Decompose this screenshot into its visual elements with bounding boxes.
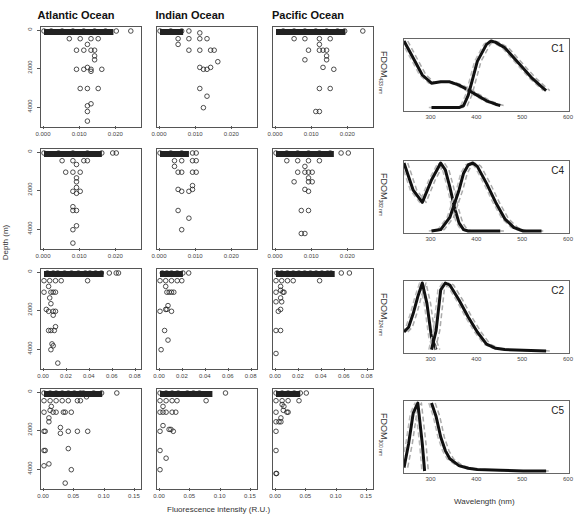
row-label-433-nm: FDOM433 nm — [378, 51, 389, 94]
x-tick-label: 0.020 — [224, 253, 239, 259]
wavelength-tick-label: 300 — [425, 476, 435, 482]
x-tick-mark — [347, 126, 348, 129]
column-title-pacific: Pacific Ocean — [258, 9, 358, 21]
scatter-points — [41, 389, 141, 489]
x-tick-label: 0.15 — [128, 493, 140, 499]
x-tick-mark — [115, 126, 116, 129]
spectra-inset-C5: C5 — [403, 400, 570, 474]
x-tick-label: 0.04 — [315, 373, 327, 379]
y-tick-label: 2000 — [27, 299, 33, 319]
x-tick-mark — [66, 368, 67, 371]
x-tick-label: 0.020 — [340, 131, 355, 137]
y-tick-mark — [37, 229, 40, 230]
x-tick-label: 0.010 — [188, 131, 203, 137]
row-label-main: FDOM — [379, 293, 389, 320]
scatter-panel-r0-c0 — [40, 26, 142, 128]
y-tick-mark — [37, 469, 40, 470]
x-tick-label: 0.010 — [72, 253, 87, 259]
x-tick-label: 0.02 — [176, 373, 188, 379]
scatter-points — [273, 269, 373, 369]
x-tick-mark — [275, 368, 276, 371]
scatter-points — [157, 149, 257, 249]
x-tick-label: 0.15 — [360, 493, 372, 499]
x-tick-label: 0.06 — [222, 373, 234, 379]
x-tick-mark — [182, 368, 183, 371]
y-tick-mark — [37, 152, 40, 153]
y-tick-mark — [37, 430, 40, 431]
x-tick-label: 0.000 — [151, 131, 166, 137]
scatter-points — [273, 149, 373, 249]
column-title-atlantic: Atlantic Ocean — [26, 9, 126, 21]
y-tick-mark — [37, 107, 40, 108]
x-tick-label: 0.00 — [37, 493, 49, 499]
x-tick-mark — [305, 488, 306, 491]
x-tick-mark — [159, 488, 160, 491]
x-tick-mark — [205, 368, 206, 371]
y-tick-label: 4000 — [27, 338, 33, 358]
y-tick-label: 4000 — [27, 218, 33, 238]
x-tick-label: 0.15 — [244, 493, 256, 499]
x-tick-mark — [159, 368, 160, 371]
x-tick-label: 0.10 — [98, 493, 110, 499]
x-tick-label: 0.00 — [269, 373, 281, 379]
x-tick-label: 0.020 — [108, 131, 123, 137]
x-tick-mark — [336, 488, 337, 491]
scatter-panel-r1-c2 — [272, 148, 374, 250]
x-tick-mark — [344, 368, 345, 371]
wavelength-tick-label: 600 — [563, 236, 573, 242]
scatter-points — [157, 389, 257, 489]
y-tick-mark — [37, 310, 40, 311]
scatter-panel-r0-c1 — [156, 26, 258, 128]
x-tick-mark — [347, 248, 348, 251]
x-tick-label: 0.020 — [224, 131, 239, 137]
x-tick-label: 0.05 — [67, 493, 79, 499]
spectra-lines — [404, 401, 569, 473]
wavelength-tick-label: 600 — [563, 114, 573, 120]
x-tick-mark — [250, 488, 251, 491]
scatter-panel-r1-c0 — [40, 148, 142, 250]
scatter-points — [157, 27, 257, 127]
x-tick-mark — [43, 488, 44, 491]
scatter-points — [157, 269, 257, 369]
scatter-panel-r0-c2 — [272, 26, 374, 128]
row-label-main: FDOM — [379, 173, 389, 200]
x-tick-mark — [104, 488, 105, 491]
x-tick-label: 0.000 — [35, 131, 50, 137]
x-tick-label: 0.000 — [267, 253, 282, 259]
wavelength-tick-label: 300 — [425, 114, 435, 120]
y-tick-mark — [37, 272, 40, 273]
x-tick-mark — [189, 488, 190, 491]
spectra-lines — [404, 281, 569, 353]
x-tick-label: 0.05 — [299, 493, 311, 499]
x-tick-mark — [275, 488, 276, 491]
scatter-points — [273, 27, 373, 127]
x-tick-label: 0.00 — [153, 493, 165, 499]
x-tick-label: 0.00 — [37, 373, 49, 379]
wavelength-tick-label: 400 — [471, 356, 481, 362]
x-tick-label: 0.04 — [199, 373, 211, 379]
y-tick-label: 2000 — [27, 57, 33, 77]
row-label-sub: 300 nm — [378, 440, 384, 457]
x-tick-mark — [134, 488, 135, 491]
row-label-382-nm: FDOM382 nm — [378, 173, 389, 216]
wavelength-tick-label: 300 — [425, 356, 435, 362]
x-tick-mark — [112, 368, 113, 371]
x-tick-label: 0.02 — [60, 373, 72, 379]
y-tick-label: 4000 — [27, 96, 33, 116]
x-tick-mark — [73, 488, 74, 491]
y-tick-label: 0 — [27, 141, 33, 161]
x-tick-mark — [135, 368, 136, 371]
x-tick-label: 0.000 — [151, 253, 166, 259]
x-tick-label: 0.06 — [338, 373, 350, 379]
component-label: C5 — [551, 405, 564, 416]
y-tick-mark — [37, 30, 40, 31]
x-tick-mark — [195, 126, 196, 129]
y-tick-label: 2000 — [27, 179, 33, 199]
row-label-sub: 324 nm — [378, 320, 384, 337]
x-tick-mark — [89, 368, 90, 371]
x-axis-label: Fluorescence intensity (R.U.) — [167, 505, 270, 514]
scatter-panel-r1-c1 — [156, 148, 258, 250]
x-tick-label: 0.10 — [330, 493, 342, 499]
y-tick-label: 0 — [27, 381, 33, 401]
x-tick-mark — [366, 488, 367, 491]
